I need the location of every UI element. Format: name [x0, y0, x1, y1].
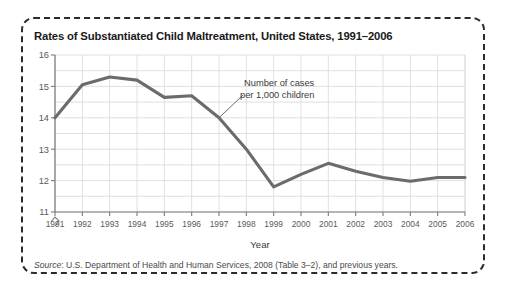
figure-dashed-border — [21, 17, 485, 274]
source-text: : U.S. Department of Health and Human Se… — [61, 260, 398, 270]
source-note: Source: U.S. Department of Health and Hu… — [34, 260, 398, 270]
chart-title: Rates of Substantiated Child Maltreatmen… — [34, 30, 392, 42]
source-label: Source — [34, 260, 61, 270]
